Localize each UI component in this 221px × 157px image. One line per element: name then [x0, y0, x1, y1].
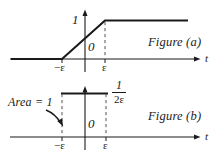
figure-a-tick-label-neg-epsilon: −ε [54, 62, 65, 73]
figure-b-y-axis-arrowhead [83, 86, 88, 93]
figure-b-tick-label-neg-epsilon: −ε [54, 140, 65, 151]
figure-a-y-axis-arrowhead [83, 10, 88, 17]
figure-panel: 1 0 −ε ε t Figure (a) 1 2ε Area = 1 0 −ε… [0, 0, 221, 157]
figure-a-origin-label: 0 [88, 40, 95, 53]
figures-vector-layer [0, 0, 221, 157]
figure-a-value-label: 1 [72, 13, 79, 26]
figure-b-x-axis-arrowhead [194, 134, 201, 139]
figure-b-origin-label: 0 [88, 117, 95, 130]
figure-b-amplitude-numerator: 1 [112, 79, 126, 92]
figure-a-x-axis-label: t [205, 53, 208, 64]
figure-b-amplitude-fraction: 1 2ε [112, 79, 126, 105]
figure-a-caption: Figure (a) [148, 36, 201, 49]
area-annotation-arrow [46, 110, 60, 122]
figure-a-tick-label-pos-epsilon: ε [102, 62, 107, 73]
figure-a-x-axis-arrowhead [194, 56, 201, 61]
figure-b-amplitude-denominator: 2ε [112, 93, 126, 105]
figure-b-tick-label-pos-epsilon: ε [103, 140, 108, 151]
figure-b-area-annotation: Area = 1 [8, 96, 53, 108]
figure-b-caption: Figure (b) [148, 110, 201, 123]
figure-b-x-axis-label: t [205, 131, 208, 142]
